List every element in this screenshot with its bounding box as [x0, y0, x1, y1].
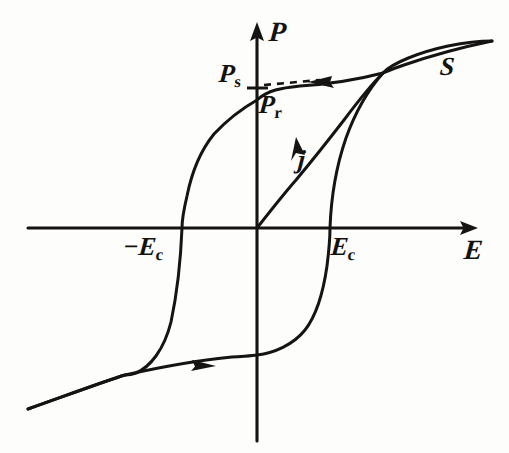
negative-coercive-field-subscript: c [155, 245, 164, 264]
positive-coercive-field-base: E [330, 232, 350, 261]
remanent-polarization-label: Pr [258, 92, 284, 118]
polarization-axis-label-text: P [268, 16, 288, 47]
polarization-axis-label: P [268, 18, 288, 46]
positive-coercive-field-label: Ec [330, 234, 357, 260]
saturation-polarization-label: Ps [218, 61, 243, 87]
electric-field-axis-label-text: E [463, 234, 484, 265]
saturation-point-label-text: S [439, 52, 456, 81]
negative-coercive-field-label: −Ec [122, 234, 165, 260]
hysteresis-figure: P E Ps Pr −Ec Ec S j [0, 0, 509, 453]
axes-group [28, 22, 478, 441]
saturation-point-label: S [439, 54, 456, 80]
flow-arrowheads-group [191, 76, 334, 371]
negative-coercive-field-base: −E [122, 232, 158, 261]
hysteresis-plot-canvas [0, 0, 509, 453]
positive-coercive-field-subscript: c [347, 245, 356, 264]
saturation-polarization-subscript: s [234, 72, 242, 91]
electric-field-axis-label: E [463, 236, 484, 264]
